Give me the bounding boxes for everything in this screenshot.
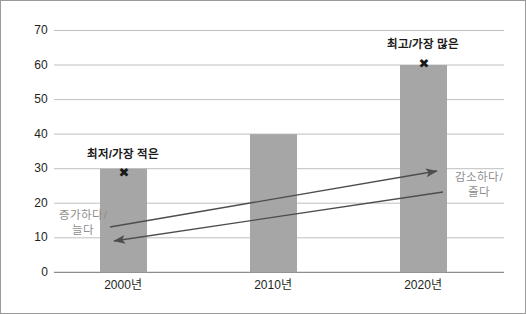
increase-annotation-label: 증가하다/ 늘다 bbox=[38, 208, 128, 238]
lowest-annotation-label: 최저/가장 적은 bbox=[43, 148, 203, 161]
xtick-label-2000: 2000년 bbox=[78, 279, 168, 292]
decrease-annotation-line1: 감소하다/ bbox=[434, 170, 524, 185]
bar-2020 bbox=[400, 65, 447, 272]
ytick-label-50: 50 bbox=[14, 93, 48, 105]
highest-x-marker: ✖ bbox=[416, 57, 432, 70]
chart-container: 70 60 50 40 30 20 10 0 2000년 2010년 2020년… bbox=[0, 0, 526, 314]
decrease-annotation-line2: 줄다 bbox=[434, 185, 524, 200]
ytick-label-0: 0 bbox=[14, 266, 48, 278]
lowest-x-marker: ✖ bbox=[116, 166, 132, 179]
ytick-label-60: 60 bbox=[14, 59, 48, 71]
increase-annotation-line1: 증가하다/ bbox=[38, 208, 128, 223]
xtick-label-2010: 2010년 bbox=[228, 279, 318, 292]
ytick-label-70: 70 bbox=[14, 24, 48, 36]
ytick-label-40: 40 bbox=[14, 128, 48, 140]
decrease-annotation-label: 감소하다/ 줄다 bbox=[434, 170, 524, 200]
ytick-label-30: 30 bbox=[14, 162, 48, 174]
xtick-label-2020: 2020년 bbox=[378, 279, 468, 292]
increase-annotation-line2: 늘다 bbox=[38, 223, 128, 238]
highest-annotation-label: 최고/가장 많은 bbox=[343, 38, 503, 51]
bar-2010 bbox=[250, 134, 297, 272]
